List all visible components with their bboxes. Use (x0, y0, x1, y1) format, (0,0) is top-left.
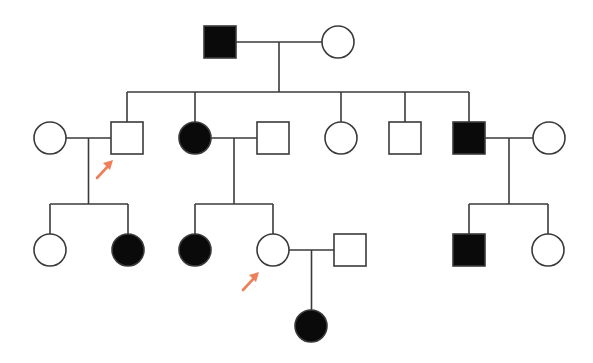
unaffected-female-iii-7-circle-icon (532, 234, 564, 266)
unaffected-female-iii-4-circle-icon (257, 234, 289, 266)
unaffected-female-ii-8-circle-icon (533, 122, 565, 154)
affected-female-iii-2-circle-icon (112, 234, 144, 266)
affected-male-ii-7-square-icon (453, 122, 485, 154)
unaffected-female-i-2-circle-icon (322, 26, 354, 58)
unaffected-male-iii-5-square-icon (334, 234, 366, 266)
affected-male-iii-6-square-icon (453, 234, 485, 266)
unaffected-male-ii-2-square-icon (111, 122, 143, 154)
affected-male-i-1-square-icon (204, 26, 236, 58)
individual-symbols (34, 26, 565, 342)
relationship-lines (50, 42, 548, 310)
pedigree-svg (0, 0, 593, 363)
affected-female-iii-3-circle-icon (179, 234, 211, 266)
unaffected-female-iii-1-circle-icon (34, 234, 66, 266)
affected-female-ii-3-circle-icon (179, 122, 211, 154)
unaffected-female-ii-5-circle-icon (325, 122, 357, 154)
pedigree-chart (0, 0, 593, 363)
unaffected-male-ii-6-square-icon (389, 122, 421, 154)
affected-female-iv-1-circle-icon (295, 310, 327, 342)
unaffected-male-ii-4-square-icon (257, 122, 289, 154)
unaffected-female-ii-1-circle-icon (34, 122, 66, 154)
